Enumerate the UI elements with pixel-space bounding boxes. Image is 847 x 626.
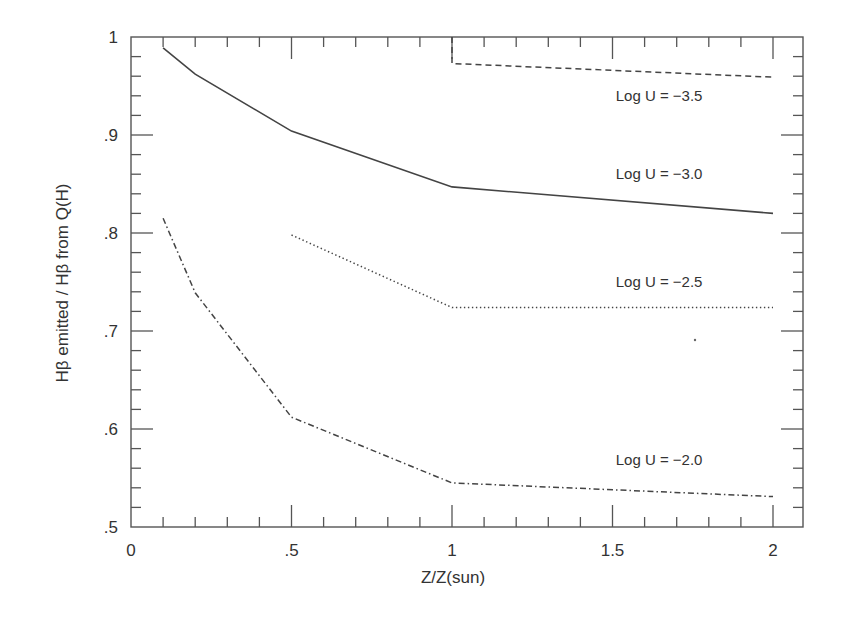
series-label: Log U = −3.5: [616, 87, 703, 104]
x-tick-label: 0: [126, 541, 135, 560]
series-label: Log U = −2.0: [616, 451, 703, 468]
series-line-solid: [163, 48, 773, 214]
x-tick-label: 1.5: [601, 541, 625, 560]
y-tick-labels: .5.6.7.8.91: [104, 28, 118, 537]
speck: [694, 339, 696, 341]
x-tick-label: 2: [768, 541, 777, 560]
y-tick-label: 1: [109, 28, 118, 47]
series-lines: [163, 37, 773, 497]
x-tick-label: 1: [447, 541, 456, 560]
y-tick-label: .9: [104, 126, 118, 145]
series-label: Log U = −2.5: [616, 273, 703, 290]
chart: 0.511.52 .5.6.7.8.91 Log U = −3.5Log U =…: [0, 0, 847, 626]
y-tick-label: .6: [104, 420, 118, 439]
series-labels: Log U = −3.5Log U = −3.0Log U = −2.5Log …: [616, 87, 703, 469]
y-axis-title: Hβ emitted / Hβ from Q(H): [53, 183, 72, 382]
x-tick-labels: 0.511.52: [126, 541, 777, 560]
y-tick-label: .5: [104, 518, 118, 537]
y-tick-label: .8: [104, 224, 118, 243]
y-tick-label: .7: [104, 322, 118, 341]
x-axis-title: Z/Z(sun): [421, 568, 485, 587]
series-line-dotted: [292, 235, 774, 308]
series-label: Log U = −3.0: [616, 165, 703, 182]
x-tick-label: .5: [284, 541, 298, 560]
